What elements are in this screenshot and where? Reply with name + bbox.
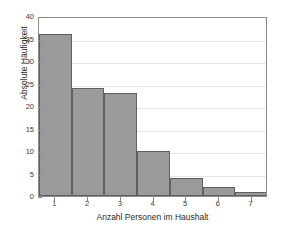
y-tick-label: 0: [0, 193, 34, 201]
y-tick-mark: [38, 152, 42, 153]
y-tick-mark: [38, 175, 42, 176]
bar: [104, 93, 137, 197]
x-tick-mark: [87, 197, 88, 201]
y-tick-mark: [38, 107, 42, 108]
bar-series: [39, 18, 266, 196]
bar: [203, 187, 236, 196]
x-tick-mark: [153, 197, 154, 201]
bar: [72, 88, 105, 196]
y-tick-mark: [38, 17, 42, 18]
y-tick-mark: [38, 40, 42, 41]
bar: [39, 34, 72, 196]
y-tick-mark: [38, 62, 42, 63]
x-tick-mark: [120, 197, 121, 201]
y-tick-label: 5: [0, 171, 34, 179]
x-tick-mark: [218, 197, 219, 201]
histogram-figure: 0510152025303540 1234567 Anzahl Personen…: [0, 0, 284, 241]
y-tick-label: 10: [0, 148, 34, 156]
y-tick-mark: [38, 130, 42, 131]
y-axis-label: Absolute Häufigkeit: [19, 0, 29, 133]
y-tick-mark: [38, 85, 42, 86]
x-tick-mark: [54, 197, 55, 201]
y-tick-mark: [38, 197, 42, 198]
bar: [170, 178, 203, 196]
x-tick-mark: [251, 197, 252, 201]
bar: [137, 151, 170, 196]
x-tick-mark: [185, 197, 186, 201]
x-axis-tick-labels: 1234567: [38, 199, 267, 213]
x-axis-label: Anzahl Personen im Haushalt: [38, 212, 267, 222]
plot-area: [38, 17, 267, 197]
bar: [235, 192, 267, 197]
